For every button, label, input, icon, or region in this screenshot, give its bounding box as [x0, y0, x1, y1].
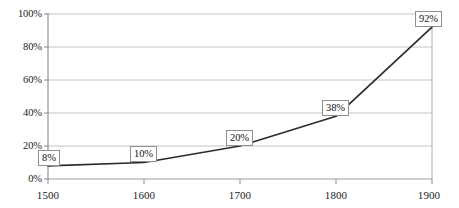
- y-axis-label-0: 0%: [8, 173, 42, 184]
- x-axis-label-1700: 1700: [215, 189, 265, 201]
- line-chart: 100% 80% 60% 40% 20% 0% 1500 1600 1700 1…: [0, 0, 459, 208]
- chart-canvas: [0, 0, 459, 208]
- y-axis-label-40: 40%: [8, 107, 42, 118]
- y-axis-label-80: 80%: [8, 41, 42, 52]
- data-point-label-1900: 92%: [415, 11, 442, 27]
- data-point-label-1800: 38%: [322, 100, 349, 116]
- data-point-label-1600: 10%: [130, 146, 157, 162]
- data-point-label-1500: 8%: [38, 150, 60, 166]
- x-axis-label-1800: 1800: [311, 189, 361, 201]
- y-axis-label-60: 60%: [8, 74, 42, 85]
- plot-area-background: [48, 14, 432, 179]
- y-axis-label-100: 100%: [8, 8, 42, 19]
- x-axis-label-1500: 1500: [23, 189, 73, 201]
- x-axis-ticks: [48, 179, 432, 184]
- x-axis-label-1600: 1600: [119, 189, 169, 201]
- y-axis-label-20: 20%: [8, 140, 42, 151]
- data-point-label-1700: 20%: [226, 130, 253, 146]
- x-axis-label-1900: 1900: [404, 189, 454, 201]
